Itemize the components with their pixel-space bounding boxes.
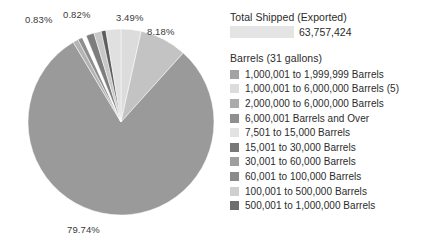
pie-slice-percentage-label: 79.74%: [67, 224, 100, 235]
legend-item-label: 6,000,001 Barrels and Over: [245, 113, 369, 124]
pie-slice-percentage-label: 8.18%: [147, 26, 174, 37]
legend-item-label: 500,001 to 1,000,000 Barrels: [245, 200, 375, 211]
legend-item[interactable]: 500,001 to 1,000,000 Barrels: [230, 198, 399, 213]
legend-color-swatch-icon: [230, 157, 239, 166]
legend-item[interactable]: 15,001 to 30,000 Barrels: [230, 140, 399, 155]
legend-item-list: 1,000,001 to 1,999,999 Barrels1,000,001 …: [230, 67, 399, 213]
pie-slice-percentage-label: 0.83%: [25, 14, 52, 25]
legend-color-swatch-icon: [230, 84, 239, 93]
legend-item[interactable]: 1,000,001 to 6,000,000 Barrels (5): [230, 82, 399, 97]
pie-chart-screenshot: 0.83%0.82%3.49%8.18%79.74% Total Shipped…: [0, 0, 438, 246]
legend-item-label: 15,001 to 30,000 Barrels: [245, 142, 356, 153]
legend-color-swatch-icon: [230, 187, 239, 196]
legend-item-label: 100,001 to 500,000 Barrels: [245, 186, 367, 197]
legend-item[interactable]: 30,001 to 60,000 Barrels: [230, 155, 399, 170]
legend-item[interactable]: 1,000,001 to 1,999,999 Barrels: [230, 67, 399, 82]
total-shipped-block: Total Shipped (Exported) 63,757,424: [230, 11, 352, 38]
legend-color-swatch-icon: [230, 114, 239, 123]
barrels-legend-title: Barrels (31 gallons): [230, 52, 399, 64]
total-shipped-title: Total Shipped (Exported): [230, 11, 352, 23]
pie-chart-panel: 0.83%0.82%3.49%8.18%79.74%: [0, 0, 228, 246]
pie-chart-graphic: [0, 0, 228, 246]
legend-item[interactable]: 100,001 to 500,000 Barrels: [230, 184, 399, 199]
legend-color-swatch-icon: [230, 172, 239, 181]
legend-item-label: 1,000,001 to 1,999,999 Barrels: [245, 69, 384, 80]
legend-item[interactable]: 60,001 to 100,000 Barrels: [230, 169, 399, 184]
total-shipped-value-row: 63,757,424: [230, 26, 352, 38]
legend-item-label: 7,501 to 15,000 Barrels: [245, 127, 350, 138]
pie-slices: [28, 29, 214, 215]
legend-item[interactable]: 7,501 to 15,000 Barrels: [230, 125, 399, 140]
redacted-field: [230, 26, 294, 38]
barrels-legend-block: Barrels (31 gallons) 1,000,001 to 1,999,…: [230, 52, 399, 213]
legend-item-label: 2,000,000 to 6,000,000 Barrels: [245, 98, 384, 109]
legend-color-swatch-icon: [230, 70, 239, 79]
legend-item-label: 30,001 to 60,000 Barrels: [245, 156, 356, 167]
legend-panel: Total Shipped (Exported) 63,757,424 Barr…: [230, 0, 438, 246]
pie-slice-percentage-label: 0.82%: [63, 9, 90, 20]
legend-item-label: 1,000,001 to 6,000,000 Barrels (5): [245, 83, 399, 94]
pie-slice-percentage-label: 3.49%: [116, 12, 143, 23]
legend-item-label: 60,001 to 100,000 Barrels: [245, 171, 361, 182]
legend-color-swatch-icon: [230, 99, 239, 108]
legend-color-swatch-icon: [230, 128, 239, 137]
legend-color-swatch-icon: [230, 201, 239, 210]
total-shipped-value: 63,757,424: [299, 26, 352, 38]
legend-color-swatch-icon: [230, 143, 239, 152]
legend-item[interactable]: 6,000,001 Barrels and Over: [230, 111, 399, 126]
legend-item[interactable]: 2,000,000 to 6,000,000 Barrels: [230, 96, 399, 111]
